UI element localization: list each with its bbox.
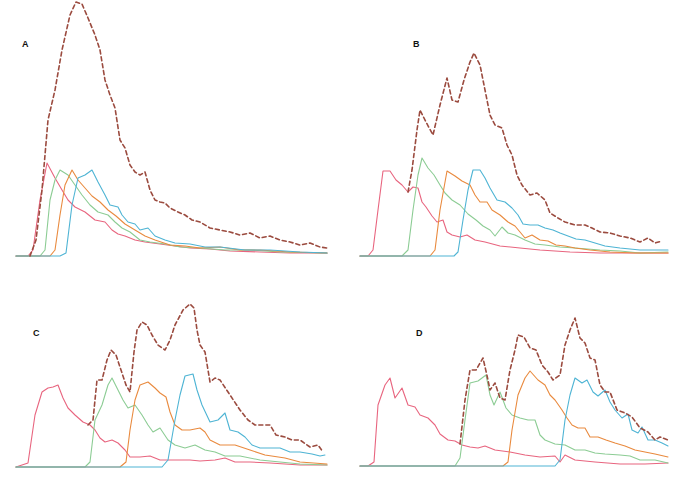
panel-label-b: B — [413, 39, 420, 49]
panel-c-pink-line — [16, 385, 327, 467]
panel-label-a: A — [22, 39, 29, 49]
panel-d: D — [360, 318, 668, 466]
panel-b-blue-line — [360, 170, 668, 256]
panel-c-orange-line — [16, 382, 327, 467]
panel-a-series — [16, 2, 327, 256]
panel-label-c: C — [33, 328, 40, 338]
panel-c: C — [16, 304, 327, 467]
panel-b-series — [360, 53, 668, 256]
panel-a-blue-line — [16, 170, 327, 256]
panel-a: A — [16, 2, 327, 256]
panel-b-total-line — [408, 53, 662, 243]
panel-c-total-line — [88, 304, 323, 452]
panel-c-series — [16, 304, 327, 467]
panel-a-total-line — [30, 2, 327, 256]
panel-b: B — [360, 39, 668, 256]
panel-c-green-line — [16, 378, 327, 467]
panel-a-green-line — [16, 170, 327, 256]
panel-b-green-line — [360, 158, 668, 256]
panel-c-blue-line — [16, 374, 325, 467]
panel-b-orange-line — [360, 171, 668, 256]
figure: A B C D — [0, 0, 683, 480]
panel-d-pink-line — [360, 378, 668, 466]
panel-a-orange-line — [16, 170, 327, 256]
panel-label-d: D — [416, 328, 423, 338]
panel-b-pink-line — [360, 171, 668, 256]
panel-d-series — [360, 318, 668, 466]
